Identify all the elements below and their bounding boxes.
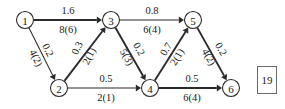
edge-cost-1-3: 1.6 — [61, 5, 74, 16]
edge-capacity-4-6: 6(4) — [183, 92, 201, 104]
answer-box: 19 — [257, 66, 277, 94]
edge-cost-5-6: 0.2 — [213, 41, 229, 58]
node-1: 1 — [17, 12, 34, 29]
arrowhead-3-to-5 — [179, 17, 184, 24]
edge-capacity-3-5: 6(4) — [143, 24, 161, 36]
edge-cost-2-4: 0.5 — [99, 73, 112, 84]
edge-capacity-2-3: 2(1) — [80, 45, 99, 66]
edge-cost-3-5: 0.8 — [145, 5, 158, 16]
edge-capacity-1-3: 8(6) — [59, 24, 77, 36]
edge-cost-2-3: 0.3 — [69, 40, 85, 57]
node-6: 6 — [223, 80, 240, 97]
arrowhead-1-to-3 — [97, 17, 102, 24]
node-label-1: 1 — [22, 15, 28, 27]
node-2: 2 — [51, 80, 68, 97]
node-label-5: 5 — [190, 15, 196, 27]
edge-cost-3-4: 0.2 — [131, 41, 147, 58]
node-label-6: 6 — [228, 83, 234, 95]
edge-capacity-1-2: 4(2) — [26, 48, 45, 69]
node-3: 3 — [103, 12, 120, 29]
network-diagram-canvas: 123456 1.68(6)0.24(2)0.32(1)0.86(4)0.25(… — [0, 0, 285, 109]
edge-cost-4-6: 0.5 — [185, 73, 198, 84]
arrowhead-4-to-6 — [217, 85, 222, 92]
node-label-4: 4 — [147, 83, 153, 95]
node-label-2: 2 — [56, 83, 62, 95]
node-label-3: 3 — [108, 15, 114, 27]
edge-capacity-2-4: 2(1) — [97, 92, 115, 104]
node-4: 4 — [142, 80, 159, 97]
arrowhead-2-to-4 — [136, 85, 141, 92]
node-5: 5 — [185, 12, 202, 29]
network-graph: 123456 1.68(6)0.24(2)0.32(1)0.86(4)0.25(… — [0, 0, 285, 109]
